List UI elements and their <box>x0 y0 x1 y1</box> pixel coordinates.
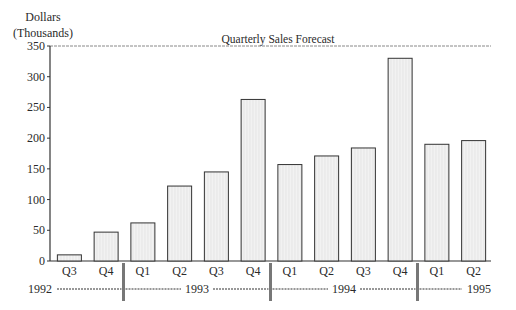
x-tick-label: Q1 <box>283 264 298 278</box>
bar-chart: 050100150200250300350Q3Q4Q1Q2Q3Q4Q1Q2Q3Q… <box>0 0 516 310</box>
bar <box>388 58 412 261</box>
x-tick-label: Q4 <box>99 264 114 278</box>
bar <box>278 165 302 261</box>
x-tick-label: Q3 <box>62 264 77 278</box>
y-tick-label: 150 <box>27 162 45 176</box>
x-tick-label: Q3 <box>356 264 371 278</box>
x-tick-label: Q3 <box>209 264 224 278</box>
y-tick-label: 300 <box>27 70 45 84</box>
x-tick-label: Q1 <box>430 264 445 278</box>
bar <box>168 186 192 261</box>
bar <box>94 232 118 261</box>
y-tick-label: 0 <box>39 254 45 268</box>
year-label: 1993 <box>185 282 209 296</box>
x-tick-label: Q1 <box>136 264 151 278</box>
y-tick-label: 350 <box>27 39 45 53</box>
bar <box>315 156 339 261</box>
x-tick-label: Q2 <box>319 264 334 278</box>
bar <box>241 99 265 261</box>
y-tick-label: 250 <box>27 100 45 114</box>
bar <box>57 255 81 261</box>
y-tick-label: 200 <box>27 131 45 145</box>
year-label: 1992 <box>28 282 52 296</box>
bar <box>204 172 228 261</box>
y-tick-label: 100 <box>27 193 45 207</box>
y-tick-label: 50 <box>33 223 45 237</box>
x-tick-label: Q4 <box>393 264 408 278</box>
bar <box>131 223 155 261</box>
x-tick-label: Q2 <box>172 264 187 278</box>
bar <box>351 148 375 261</box>
x-tick-label: Q2 <box>466 264 481 278</box>
bar <box>462 141 486 261</box>
bar <box>425 144 449 261</box>
x-tick-label: Q4 <box>246 264 261 278</box>
year-label: 1994 <box>332 282 356 296</box>
year-label: 1995 <box>467 282 491 296</box>
